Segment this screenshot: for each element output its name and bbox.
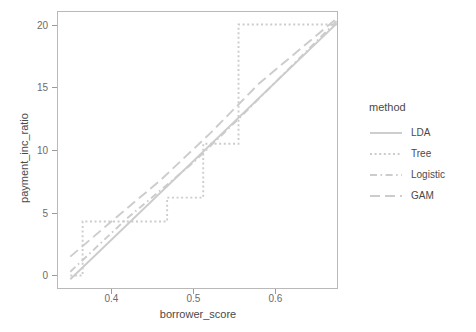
legend-item-gam[interactable]: GAM [369,185,473,206]
legend-item-tree[interactable]: Tree [369,143,473,164]
x-tick-mark [193,289,194,294]
series-line-logistic [70,21,337,272]
y-tick-mark [52,150,57,151]
y-tick-label: 15 [22,82,48,93]
legend-label: LDA [411,127,430,138]
dotted-line-key [369,147,403,161]
x-axis-title: borrower_score [57,308,339,320]
series-line-lda [70,23,337,279]
x-tick-mark [111,289,112,294]
x-axis-tick-labels: 0.40.50.6 [0,293,476,307]
legend-item-logistic[interactable]: Logistic [369,164,473,185]
solid-line-key [369,126,403,140]
legend-title: method [369,101,473,113]
legend-item-lda[interactable]: LDA [369,122,473,143]
y-tick-mark [52,213,57,214]
dashdot-line-key [369,168,403,182]
x-tick-label: 0.4 [104,293,118,304]
x-tick-mark [275,289,276,294]
legend-label: Tree [411,148,431,159]
y-tick-label: 0 [22,270,48,281]
y-axis-tick-labels: 05101520 [22,0,48,332]
x-tick-label: 0.6 [269,293,283,304]
longdash-line-key [369,189,403,203]
y-tick-mark [52,87,57,88]
legend-label: GAM [411,190,434,201]
legend: method LDATreeLogisticGAM [369,101,473,206]
y-tick-mark [52,275,57,276]
y-tick-label: 20 [22,19,48,30]
plot-panel [57,11,338,289]
legend-items: LDATreeLogisticGAM [369,122,473,206]
plot-lines-svg [58,12,337,288]
y-tick-mark [52,25,57,26]
x-tick-label: 0.5 [186,293,200,304]
legend-label: Logistic [411,169,445,180]
y-tick-label: 10 [22,145,48,156]
chart-container: payment_inc_ratio 05101520 0.40.50.6 bor… [0,0,476,332]
y-tick-label: 5 [22,207,48,218]
